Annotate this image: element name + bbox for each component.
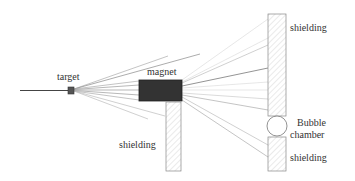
bubble-chamber-label-line1: Bubble — [297, 117, 326, 128]
shielding-label-upper-right: shielding — [290, 22, 327, 33]
bubble-chamber-circle — [267, 116, 287, 136]
bubble-chamber-label-line2: chamber — [290, 129, 325, 140]
shielding-label-lower: shielding — [119, 139, 156, 150]
shielding-block-lower — [166, 102, 181, 171]
target-label: target — [57, 71, 80, 82]
magnet-label: magnet — [147, 66, 177, 77]
shielding-block-lower-right — [268, 137, 286, 171]
shielding-label-lower-right: shielding — [290, 152, 327, 163]
experiment-diagram: target magnet shielding shielding Bubble… — [0, 0, 355, 181]
shielding-block-upper-right — [268, 14, 286, 116]
magnet-block — [139, 80, 182, 101]
target-block — [68, 87, 74, 94]
